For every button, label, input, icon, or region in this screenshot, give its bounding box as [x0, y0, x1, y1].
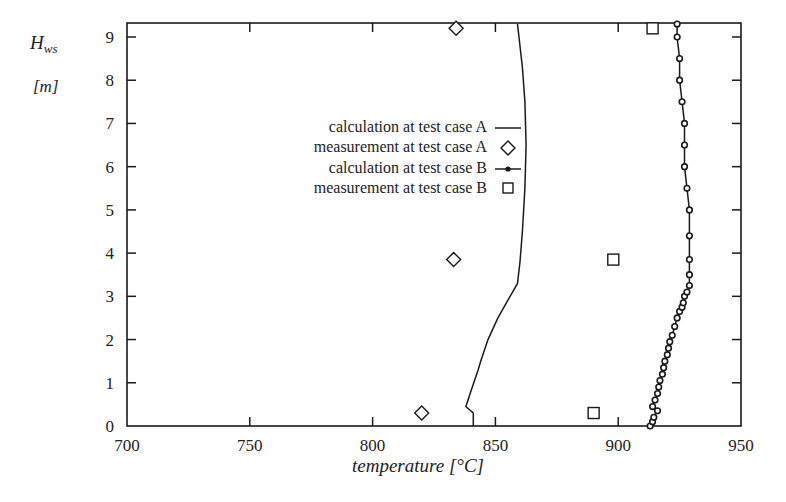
x-tick-label: 850 — [483, 436, 509, 455]
legend-label-meas-a: measurement at test case A — [314, 138, 488, 155]
calculation-b-marker — [666, 345, 672, 351]
measurement-a-diamond — [415, 406, 429, 420]
calculation-b-marker — [650, 404, 656, 410]
calculation-b-marker — [687, 207, 693, 213]
y-axis-unit: [m] — [33, 77, 59, 96]
legend-label-calc-a: calculation at test case A — [329, 118, 488, 135]
calculation-b-marker — [684, 289, 690, 295]
x-tick-label: 950 — [728, 436, 754, 455]
calculation-b-marker — [682, 164, 688, 170]
calculation-b-marker — [684, 185, 690, 191]
y-tick-label: 9 — [106, 28, 115, 47]
temperature-height-chart: Hws [m] 700750800850900950 0123456789 te… — [0, 0, 786, 502]
measurement-a-diamond — [447, 253, 461, 267]
calculation-b-marker — [674, 315, 680, 321]
calculation-b-marker — [652, 397, 658, 403]
y-tick-label: 3 — [106, 287, 115, 306]
calculation-b-marker — [667, 339, 673, 345]
calculation-b-marker — [662, 358, 668, 364]
y-tick-label: 8 — [106, 71, 115, 90]
y-tick-label: 0 — [106, 417, 115, 436]
calculation-b-marker — [655, 391, 661, 397]
y-tick-label: 6 — [106, 158, 115, 177]
calculation-b-marker — [677, 77, 683, 83]
calculation-b-marker — [682, 142, 688, 148]
y-axis-symbol: H — [29, 32, 45, 53]
x-tick-label: 750 — [237, 436, 263, 455]
x-tick-label: 800 — [360, 436, 386, 455]
calculation-b-marker — [656, 384, 662, 390]
calculation-b-marker — [679, 99, 685, 105]
calculation-b-marker — [657, 378, 663, 384]
calculation-b-marker — [682, 121, 688, 127]
y-axis-subscript: ws — [44, 41, 58, 56]
legend-diamond-icon — [501, 141, 515, 155]
legend-label-meas-b: measurement at test case B — [314, 179, 487, 196]
y-axis-ticks: 0123456789 — [106, 28, 742, 436]
legend-circle-icon — [505, 166, 510, 171]
legend-square-icon — [503, 183, 513, 193]
measurement-b-square — [588, 408, 599, 419]
calculation-b-marker — [665, 352, 671, 358]
calculation-b-marker — [655, 408, 661, 414]
calculation-b-marker — [687, 257, 693, 263]
calculation-b-marker — [674, 34, 680, 40]
y-tick-label: 7 — [106, 114, 115, 133]
calculation-b-marker — [687, 272, 693, 278]
x-tick-label: 700 — [114, 436, 140, 455]
calculation-b-marker — [674, 21, 680, 27]
calculation-a-line — [466, 24, 526, 426]
calculation-b-marker — [677, 56, 683, 62]
y-tick-label: 1 — [106, 374, 115, 393]
plot-frame — [127, 23, 741, 426]
svg-text:Hws: Hws — [29, 32, 57, 56]
calculation-b-marker — [661, 365, 667, 371]
legend: calculation at test case A measurement a… — [314, 118, 521, 196]
calculation-b-line — [650, 24, 689, 426]
y-tick-label: 5 — [106, 201, 115, 220]
y-tick-label: 2 — [106, 331, 115, 350]
y-tick-label: 4 — [106, 244, 115, 263]
calculation-b-marker — [660, 371, 666, 377]
measurement-b-square — [608, 254, 619, 265]
calculation-b-marker — [651, 415, 657, 421]
plot-area — [415, 21, 693, 429]
calculation-b-marker — [669, 332, 675, 338]
measurement-b-square — [647, 23, 658, 34]
x-axis-title: temperature [°C] — [352, 455, 484, 476]
x-tick-label: 900 — [605, 436, 631, 455]
calculation-b-marker — [672, 324, 678, 330]
y-axis-title: Hws [m] — [29, 32, 59, 96]
calculation-b-marker — [687, 283, 693, 289]
calculation-b-marker — [687, 233, 693, 239]
calculation-b-marker — [680, 300, 686, 306]
legend-label-calc-b: calculation at test case B — [329, 159, 487, 176]
